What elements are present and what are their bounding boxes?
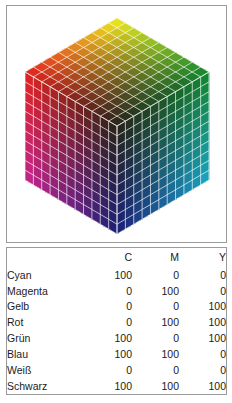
- cell-c: 0: [85, 315, 132, 331]
- cell-y: 0: [179, 346, 226, 362]
- color-cube-panel: [6, 5, 227, 243]
- table-row: Blau1001000: [7, 346, 226, 362]
- table-row: Rot0100100: [7, 315, 226, 331]
- table-header: C M Y: [7, 248, 226, 267]
- cell-name: Gelb: [7, 299, 85, 315]
- table-header-row: C M Y: [7, 248, 226, 267]
- cell-name: Grün: [7, 331, 85, 347]
- table-row: Magenta01000: [7, 283, 226, 299]
- column-header-y: Y: [179, 248, 226, 267]
- table-row: Weiß000: [7, 362, 226, 378]
- cell-y: 0: [179, 362, 226, 378]
- cell-c: 100: [85, 331, 132, 347]
- table-body: Cyan10000Magenta01000Gelb00100Rot0100100…: [7, 267, 226, 394]
- cell-c: 0: [85, 362, 132, 378]
- cell-y: 0: [179, 267, 226, 283]
- cell-y: 0: [179, 283, 226, 299]
- cell-c: 100: [85, 267, 132, 283]
- color-cube-isometric: [7, 6, 226, 242]
- cell-name: Rot: [7, 315, 85, 331]
- cmy-values-panel: C M Y Cyan10000Magenta01000Gelb00100Rot0…: [6, 247, 227, 395]
- table-row: Cyan10000: [7, 267, 226, 283]
- cell-y: 100: [179, 315, 226, 331]
- cell-name: Cyan: [7, 267, 85, 283]
- table-row: Gelb00100: [7, 299, 226, 315]
- cell-m: 0: [132, 267, 179, 283]
- figure-page: C M Y Cyan10000Magenta01000Gelb00100Rot0…: [0, 0, 232, 403]
- cell-m: 100: [132, 315, 179, 331]
- color-cube-stage: [7, 6, 226, 242]
- cell-name: Weiß: [7, 362, 85, 378]
- cell-c: 0: [85, 299, 132, 315]
- cell-m: 100: [132, 346, 179, 362]
- cell-y: 100: [179, 378, 226, 394]
- cell-y: 100: [179, 299, 226, 315]
- cell-name: Schwarz: [7, 378, 85, 394]
- cell-c: 100: [85, 346, 132, 362]
- table-row: Schwarz100100100: [7, 378, 226, 394]
- cmy-values-table: C M Y Cyan10000Magenta01000Gelb00100Rot0…: [7, 248, 226, 394]
- cell-m: 0: [132, 331, 179, 347]
- cell-name: Blau: [7, 346, 85, 362]
- column-header-c: C: [85, 248, 132, 267]
- column-header-name: [7, 248, 85, 267]
- cell-c: 100: [85, 378, 132, 394]
- cell-m: 100: [132, 283, 179, 299]
- cell-c: 0: [85, 283, 132, 299]
- table-row: Grün1000100: [7, 331, 226, 347]
- cell-m: 0: [132, 299, 179, 315]
- cell-m: 100: [132, 378, 179, 394]
- cell-name: Magenta: [7, 283, 85, 299]
- cell-m: 0: [132, 362, 179, 378]
- cell-y: 100: [179, 331, 226, 347]
- column-header-m: M: [132, 248, 179, 267]
